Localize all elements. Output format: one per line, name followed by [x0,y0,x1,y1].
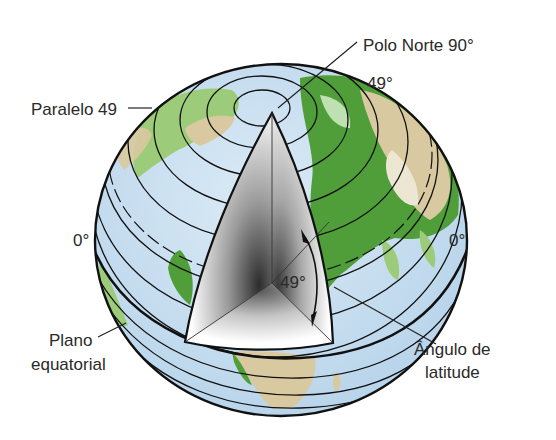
latitude-diagram: Polo Norte 90° Paralelo 49 49° 0° 0° 49°… [0,0,556,440]
label-equator-right: 0° [449,231,465,250]
label-equator-left: 0° [73,231,89,250]
label-inner-angle: 49° [280,273,306,292]
label-equatorial-plane-2: equatorial [31,355,106,374]
label-parallel-degree: 49° [367,74,393,93]
label-latitude-angle-1: Ângulo de [414,340,491,359]
label-parallel-49: Paralelo 49 [31,100,117,119]
label-north-pole: Polo Norte 90° [363,36,474,55]
globe-svg: Polo Norte 90° Paralelo 49 49° 0° 0° 49°… [0,0,556,440]
label-equatorial-plane-1: Plano [49,331,92,350]
label-latitude-angle-2: latitude [425,363,480,382]
